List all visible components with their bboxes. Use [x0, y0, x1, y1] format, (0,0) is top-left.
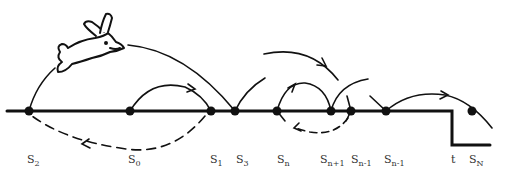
label-sn-1: Sn-1: [384, 153, 405, 168]
hopping-diagram: [0, 0, 512, 184]
node-s1: [207, 107, 216, 116]
arc-s2-rabbit: [29, 68, 55, 111]
arrowhead-return-s2: [82, 139, 90, 148]
label-s1: S1: [210, 153, 223, 168]
label-t: t: [451, 153, 455, 166]
arc-top-to-sn1: [264, 52, 338, 80]
dashed-return-s1-s2: [32, 116, 205, 150]
rabbit-icon: [58, 14, 125, 72]
arrowhead-sn-sn1: [288, 84, 295, 92]
arc-sn-sn1: [277, 83, 331, 111]
label-sn-1: Sn-1: [351, 153, 372, 168]
arc-rabbit-s3: [128, 45, 235, 111]
baseline: [7, 111, 490, 145]
arc-s3-up: [235, 78, 265, 111]
label-s2: S2: [27, 153, 40, 168]
node-s2: [25, 107, 34, 116]
label-sn: Sn: [277, 153, 290, 168]
node-sn-plus-1: [327, 107, 336, 116]
arrowhead-return-small: [294, 123, 301, 131]
label-sn: SN: [469, 153, 484, 168]
label-s0: S0: [128, 153, 141, 168]
dashed-return-small: [294, 118, 348, 133]
arc-s0-s1: [130, 85, 211, 111]
node-sn-minus-1-b: [382, 107, 391, 116]
node-sn-minus-1-a: [347, 107, 356, 116]
node-sN: [468, 107, 477, 116]
node-s0: [126, 107, 135, 116]
node-s3: [231, 107, 240, 116]
label-s3: S3: [236, 153, 249, 168]
label-sn-1: Sn+1: [320, 153, 345, 168]
node-sn: [273, 107, 282, 116]
